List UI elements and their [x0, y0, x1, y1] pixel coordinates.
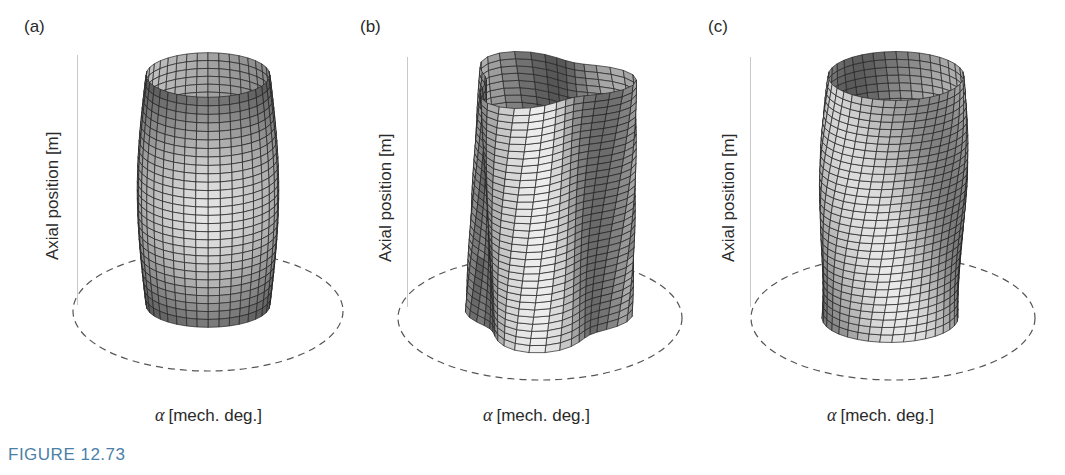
twisted-mesh-plot [705, 0, 1060, 430]
panel-b: (b) Axial position [m] α[mech. deg.] [355, 0, 710, 430]
alpha-symbol: α [155, 405, 164, 425]
lobed-mesh-plot [355, 0, 710, 430]
surface-mesh [137, 53, 278, 328]
x-axis-unit-b: [mech. deg.] [496, 406, 590, 425]
surface-mesh [465, 51, 636, 352]
x-axis-unit-a: [mech. deg.] [168, 406, 262, 425]
x-axis-unit-c: [mech. deg.] [840, 406, 934, 425]
x-axis-label-a: α[mech. deg.] [155, 405, 262, 426]
alpha-symbol: α [827, 405, 836, 425]
surface-mesh [819, 52, 967, 343]
barrel-mesh-plot [0, 0, 355, 430]
panel-a: (a) Axial position [m] α[mech. deg.] [0, 0, 355, 430]
x-axis-label-c: α[mech. deg.] [827, 405, 934, 426]
alpha-symbol: α [483, 405, 492, 425]
panel-c: (c) Axial position [m] α[mech. deg.] [705, 0, 1060, 430]
x-axis-label-b: α[mech. deg.] [483, 405, 590, 426]
figure-caption: FIGURE 12.73 [8, 445, 126, 465]
